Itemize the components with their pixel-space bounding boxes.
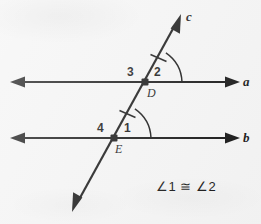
line-a (10, 77, 240, 88)
point-E-dot (111, 135, 118, 142)
point-D-dot (142, 79, 149, 86)
angle-1-label: 1 (124, 122, 131, 134)
geometry-figure-page: a b c D E 3 2 4 1 ∠1 ≅ ∠2 (0, 0, 261, 224)
angle-4-label: 4 (97, 122, 104, 134)
point-D-label: D (147, 87, 156, 99)
geometry-diagram-canvas (0, 0, 261, 224)
point-E-label: E (115, 143, 122, 155)
angle-1-arc (135, 109, 151, 138)
line-b-left-arrowhead (10, 133, 25, 144)
line-b-label: b (243, 131, 250, 144)
angle-2-label: 2 (154, 66, 161, 78)
congruence-statement: ∠1 ≅ ∠2 (156, 180, 216, 193)
angle-3-label: 3 (127, 66, 134, 78)
angle-2-arc (166, 53, 182, 82)
line-c-label: c (186, 10, 192, 23)
line-b-right-arrowhead (225, 133, 240, 144)
line-a-left-arrowhead (10, 77, 25, 88)
line-a-label: a (243, 75, 250, 88)
line-a-right-arrowhead (225, 77, 240, 88)
